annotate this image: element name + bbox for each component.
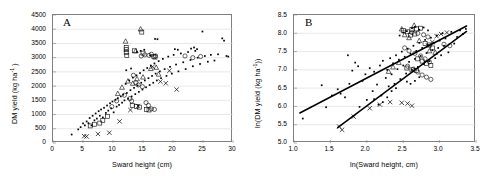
data-point-small-filled-dot (214, 60, 216, 62)
data-point-small-filled-dot (365, 73, 367, 75)
data-point-open-circle (420, 73, 424, 77)
data-point-small-filled-dot (124, 100, 126, 102)
data-point-x-mark (434, 34, 438, 38)
data-point-small-filled-dot (199, 63, 201, 65)
data-point-open-circle (199, 54, 203, 58)
data-point-x-mark (164, 81, 168, 85)
data-point-open-square (106, 114, 110, 118)
data-point-small-filled-dot (448, 52, 450, 54)
data-point-small-filled-dot (130, 89, 132, 91)
data-point-small-filled-dot (369, 67, 371, 69)
data-point-x-mark (340, 128, 344, 132)
data-point-small-filled-dot (395, 87, 397, 89)
data-point-small-filled-dot (159, 71, 161, 73)
panel-a-y-tick-2500: 2500 (22, 68, 46, 75)
data-point-small-filled-dot (420, 55, 422, 57)
data-point-open-square (101, 118, 105, 122)
panel-b-x-tick-3p5: 3.5 (463, 145, 486, 152)
data-point-small-filled-dot (373, 71, 375, 73)
data-point-open-triangle (115, 91, 120, 95)
data-point-x-mark (128, 108, 132, 112)
data-point-x-mark (167, 69, 171, 73)
data-point-small-filled-dot (337, 88, 339, 90)
data-point-open-square (140, 30, 144, 34)
data-point-small-filled-dot (207, 61, 209, 63)
data-point-small-filled-dot (190, 48, 192, 50)
data-point-small-filled-dot (391, 90, 393, 92)
data-point-small-filled-dot (359, 106, 361, 108)
data-point-small-filled-dot (349, 83, 351, 85)
data-point-small-filled-dot (143, 69, 145, 71)
data-point-small-filled-dot (98, 110, 100, 112)
data-point-small-filled-dot (210, 54, 212, 56)
data-point-small-filled-dot (126, 92, 128, 94)
data-point-small-filled-dot (450, 31, 452, 33)
steep-regression-line (338, 31, 467, 127)
panel-a-y-tick-3500: 3500 (22, 39, 46, 46)
data-point-small-filled-dot (410, 83, 412, 85)
panel-a-y-tick-4000: 4000 (22, 25, 46, 32)
series-cross-x (82, 65, 179, 139)
data-point-open-triangle (135, 76, 140, 80)
data-point-small-filled-dot (217, 53, 219, 55)
data-point-small-filled-dot (440, 54, 442, 56)
data-point-small-filled-dot (149, 84, 151, 86)
data-point-open-circle (403, 46, 407, 50)
data-point-open-circle (152, 107, 156, 111)
data-point-small-filled-dot (94, 119, 96, 121)
data-point-small-filled-dot (406, 30, 408, 32)
data-point-open-square (98, 121, 102, 125)
data-point-small-filled-dot (372, 90, 374, 92)
data-point-small-filled-dot (156, 80, 158, 82)
data-point-open-circle (146, 103, 150, 107)
figure-container: DM yield (kg ha-1 ) 4500 4000 3500 3000 … (0, 0, 486, 179)
data-point-small-filled-dot (351, 70, 353, 72)
series-open-square (88, 30, 157, 128)
data-point-small-filled-dot (180, 53, 182, 55)
data-point-small-filled-dot (385, 77, 387, 79)
data-point-open-circle (410, 30, 414, 34)
data-point-small-filled-dot (408, 61, 410, 63)
data-point-open-square (130, 103, 134, 107)
data-point-open-circle (424, 75, 428, 79)
data-point-open-circle (416, 70, 420, 74)
data-point-small-filled-dot (379, 65, 381, 67)
data-point-small-filled-dot (357, 65, 359, 67)
gridlines (294, 33, 476, 124)
data-point-small-filled-dot (96, 118, 98, 120)
data-point-small-filled-dot (193, 47, 195, 49)
data-point-x-mark (410, 104, 414, 108)
data-point-x-mark (388, 100, 392, 104)
panel-b-y-tick-6p5: 6.5 (265, 84, 287, 91)
data-point-small-filled-dot (125, 69, 127, 71)
panel-a-y-tick-4500: 4500 (22, 11, 46, 18)
panel-b-y-tick-5p0: 5.0 (265, 138, 287, 145)
data-point-small-filled-dot (80, 126, 82, 128)
data-point-small-filled-dot (148, 77, 150, 79)
data-point-small-filled-dot (151, 75, 153, 77)
series-open-circle (110, 52, 203, 111)
data-point-open-square (423, 42, 427, 46)
data-point-small-filled-dot (112, 101, 114, 103)
series-dot (71, 31, 229, 136)
panel-a-x-tick-5: 5 (70, 145, 94, 152)
data-point-small-filled-dot (107, 110, 109, 112)
data-point-small-filled-dot (121, 102, 123, 104)
data-point-open-square (420, 59, 424, 63)
panel-a-x-tick-10: 10 (100, 145, 124, 152)
data-point-small-filled-dot (118, 104, 120, 106)
panel-b-y-tick-6p0: 6.0 (265, 102, 287, 109)
data-point-x-mark (84, 134, 88, 138)
data-point-small-filled-dot (397, 68, 399, 70)
data-point-small-filled-dot (190, 59, 192, 61)
data-point-small-filled-dot (169, 66, 171, 68)
panel-b-y-tick-7p0: 7.0 (265, 65, 287, 72)
data-point-small-filled-dot (139, 72, 141, 74)
data-point-small-filled-dot (113, 111, 115, 113)
data-point-small-filled-dot (178, 71, 180, 73)
data-point-small-filled-dot (344, 96, 346, 98)
data-point-open-triangle (123, 39, 128, 43)
data-point-small-filled-dot (453, 43, 455, 45)
data-point-small-filled-dot (389, 57, 391, 59)
panel-a-x-tick-30: 30 (220, 145, 244, 152)
